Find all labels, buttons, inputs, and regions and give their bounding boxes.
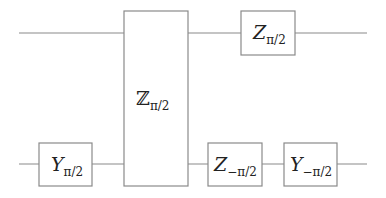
gate-zz-pi-2: ℤπ/2	[124, 11, 188, 186]
gate-y-pi-2: Yπ/2	[39, 143, 92, 186]
circuit-diagram: Yπ/2 ℤπ/2 Zπ/2 Z−π/2 Y−π/2	[0, 0, 386, 198]
gate-z-pi-2: Zπ/2	[241, 11, 295, 55]
gate-y-neg-pi-2: Y−π/2	[284, 143, 337, 186]
gate-z-neg-pi-2: Z−π/2	[208, 143, 262, 186]
